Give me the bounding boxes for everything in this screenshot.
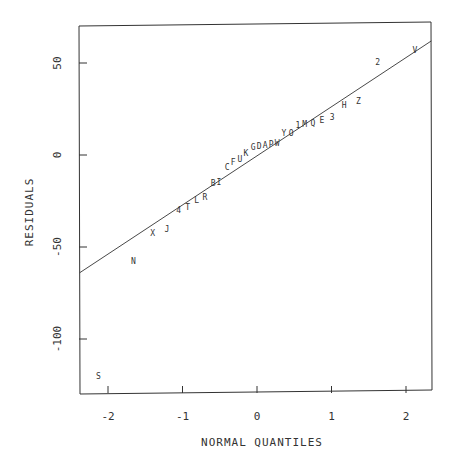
reference-line	[80, 41, 432, 273]
point-label: R	[202, 193, 207, 202]
x-tick-label: 1	[328, 410, 335, 423]
point-label: G	[251, 143, 256, 152]
point-label: X	[150, 229, 155, 238]
y-tick-label: 0	[51, 152, 64, 159]
point-label: U	[237, 155, 242, 164]
point-label: P	[269, 140, 274, 149]
y-axis: 500-50-100	[51, 56, 87, 352]
point-label: Z	[356, 97, 361, 106]
x-tick-label: 2	[403, 410, 410, 423]
point-label: N	[131, 257, 136, 266]
x-axis-label: NORMAL QUANTILES	[201, 436, 323, 449]
x-tick-label: 0	[254, 410, 261, 423]
plot-frame	[79, 22, 432, 394]
point-label: M	[302, 120, 307, 129]
qq-plot: -2-1012 500-50-100 SNXJ4TLRBICFUKGDAPWYO…	[0, 0, 454, 464]
fit-line	[80, 41, 432, 273]
y-tick-label: -50	[51, 237, 64, 257]
point-label: H	[342, 101, 347, 110]
point-label: Q	[310, 119, 315, 128]
point-label: B	[211, 179, 216, 188]
point-label: J	[164, 225, 169, 234]
point-label: 2	[375, 58, 380, 67]
point-label: 1	[296, 121, 301, 130]
point-label: I	[217, 178, 222, 187]
point-label: Y	[281, 129, 286, 138]
point-label: W	[275, 139, 280, 148]
point-label: D	[257, 142, 262, 151]
point-label: K	[243, 149, 248, 158]
x-tick-label: -2	[101, 410, 114, 423]
y-tick-label: -100	[51, 326, 64, 353]
x-tick-label: -1	[176, 410, 189, 423]
y-axis-label: RESIDUALS	[23, 178, 36, 247]
data-points: SNXJ4TLRBICFUKGDAPWYO1MQE3HZ2V	[96, 46, 418, 381]
point-label: T	[185, 203, 190, 212]
point-label: 4	[176, 206, 181, 215]
point-label: V	[413, 46, 418, 55]
point-label: E	[319, 116, 324, 125]
point-label: S	[96, 372, 101, 381]
point-label: 3	[330, 113, 335, 122]
point-label: F	[231, 158, 236, 167]
point-label: L	[194, 196, 199, 205]
plot-border	[79, 22, 432, 394]
y-tick-label: 50	[51, 56, 64, 69]
point-label: O	[289, 129, 294, 138]
point-label: C	[225, 163, 230, 172]
point-label: A	[263, 141, 268, 150]
